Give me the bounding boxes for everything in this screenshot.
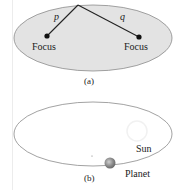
orbit-diagram: p q Focus Focus (a) Sun Planet (b) — [0, 0, 180, 190]
sun-icon — [127, 121, 147, 141]
planet-icon — [105, 158, 116, 169]
panel-a: p q Focus Focus (a) — [14, 5, 172, 86]
sun-label: Sun — [136, 143, 152, 154]
label-p: p — [53, 11, 59, 22]
panel-b: Sun Planet (b) — [14, 102, 172, 183]
caption-b: (b) — [84, 173, 95, 183]
ellipse-a — [14, 5, 172, 71]
focus-left-dot — [44, 33, 49, 38]
focus-right-label: Focus — [124, 41, 148, 52]
label-q: q — [120, 11, 125, 22]
caption-a: (a) — [84, 76, 94, 86]
focus-left-label: Focus — [32, 41, 56, 52]
focus-right-dot — [136, 34, 141, 39]
center-dot — [91, 155, 92, 156]
planet-label: Planet — [125, 168, 150, 179]
orbit-ellipse — [14, 102, 172, 166]
